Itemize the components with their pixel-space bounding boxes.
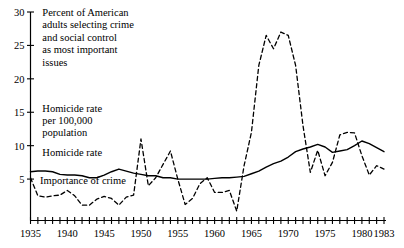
x-tick-label: 1945 <box>94 228 115 239</box>
x-tick-label: 1955 <box>167 228 188 239</box>
x-tick-label: 1975 <box>315 228 336 239</box>
x-tick-label: 1950 <box>130 228 151 239</box>
x-tick-label: 1980 <box>351 228 372 239</box>
x-tick-label: 1960 <box>204 228 225 239</box>
y-tick-label: 25 <box>14 40 25 51</box>
y-tick-label: 30 <box>14 7 25 18</box>
x-axis-tick-labels: 1935194019451950195519601965197019751980… <box>20 228 395 239</box>
y-axis-tick-labels: 51015202530 <box>14 7 25 185</box>
x-tick-label: 1935 <box>20 228 41 239</box>
annotation-homicide-series-label: Homicide rate <box>42 147 102 159</box>
y-tick-label: 20 <box>14 74 25 85</box>
y-tick-label: 10 <box>14 141 25 152</box>
y-tick-label: 15 <box>14 107 25 118</box>
y-axis <box>27 12 34 221</box>
chart-container: 51015202530 1935194019451950195519601965… <box>0 0 404 248</box>
x-axis <box>31 217 387 224</box>
x-tick-label: 1965 <box>241 228 262 239</box>
x-tick-label: 1983 <box>374 228 395 239</box>
annotation-importance-series-label: Importance of crime <box>40 175 126 187</box>
annotation-percent-note: Percent of American adults selecting cri… <box>42 7 134 69</box>
x-tick-label: 1940 <box>57 228 78 239</box>
x-tick-label: 1970 <box>278 228 299 239</box>
annotation-homicide-unit-note: Homicide rate per 100,000 population <box>42 103 102 140</box>
y-tick-label: 5 <box>19 174 24 185</box>
